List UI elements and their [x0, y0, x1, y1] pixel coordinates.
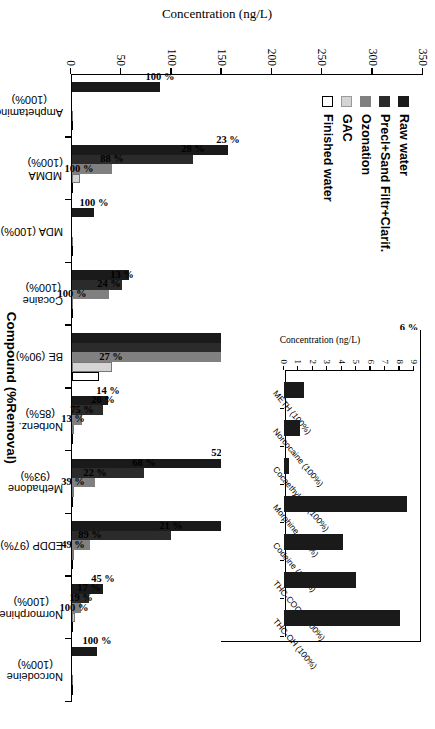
inset-y-tick-mark — [341, 366, 342, 370]
legend-swatch — [342, 96, 353, 107]
percent-annotation: 27 % — [99, 350, 123, 361]
inset-bar — [284, 572, 356, 588]
inset-chart-y-axis-label: Concentration (ng/L) — [280, 335, 360, 345]
x-tick-mark — [65, 701, 72, 702]
percent-annotation: 28 % — [181, 143, 205, 154]
bar-stack: 100 % — [72, 639, 423, 702]
inset-chart-bar-groups: METH (100%)Norcocaine (100%)Cocaethylene… — [284, 371, 414, 637]
legend-swatch — [323, 96, 334, 107]
percent-annotation: 88 % — [100, 153, 124, 164]
inset-y-tick-mark — [413, 366, 414, 370]
inset-bar-group: Morphine (100%) — [284, 485, 414, 523]
legend-swatch — [399, 96, 410, 107]
bar-group: 13 %24 %100 %Cocaine(100%) — [72, 263, 423, 326]
bar-stack: 13 %24 %100 % — [72, 263, 423, 326]
main-y-tick-mark — [371, 68, 372, 74]
inset-y-tick-mark — [283, 366, 284, 370]
percent-annotation: 21 % — [159, 519, 183, 530]
main-y-tick-mark — [321, 68, 322, 74]
percent-annotation: 68 % — [133, 456, 157, 467]
inset-chart-plot-area: METH (100%)Norcocaine (100%)Cocaethylene… — [285, 370, 414, 637]
bar — [72, 237, 73, 247]
percent-annotation: 20 % — [91, 394, 115, 405]
inset-chart: METH (100%)Norcocaine (100%)Cocaethylene… — [221, 330, 421, 642]
category-label: MDMA(100%) — [28, 156, 63, 181]
inset-bar-group: METH (100%) — [284, 371, 414, 409]
bar — [72, 372, 99, 382]
inset-bar — [284, 496, 407, 512]
legend-label: Ozonation — [359, 114, 373, 175]
legend-item[interactable]: GAC — [340, 96, 354, 252]
category-name: Amphetamine — [0, 106, 63, 119]
inset-y-tick-mark — [312, 366, 313, 370]
inset-bar-wrap — [284, 599, 414, 637]
category-name: MDMA — [28, 169, 63, 182]
figure-canvas: 100 %Amphetamine(100%)23 %28 %88 %100 %M… — [0, 0, 435, 729]
bar — [72, 111, 73, 121]
bar-group: 100 %Norcodeine(100%) — [72, 639, 423, 702]
category-name: Cocaine — [23, 294, 63, 307]
x-tick-mark — [65, 513, 72, 514]
main-chart-x-axis-label: Compound (%Removal) — [4, 312, 19, 464]
legend-item[interactable]: Finished water — [321, 96, 335, 252]
percent-annotation: 100 % — [83, 635, 112, 646]
x-tick-mark — [65, 450, 72, 451]
bar — [72, 497, 73, 507]
inset-bar — [284, 534, 343, 550]
inset-y-tick-mark — [369, 366, 370, 370]
legend-label: Precl+Sand Filtr+Clarif. — [378, 114, 392, 252]
inset-y-tick-mark — [326, 366, 327, 370]
inset-bar-group: Codeine (100%) — [284, 523, 414, 561]
category-label: Norbenz.(85%) — [18, 407, 63, 432]
category-name: Norbenz. — [18, 420, 63, 433]
inset-bar-wrap — [284, 409, 414, 447]
percent-annotation: 39 % — [62, 476, 86, 487]
bar: 100 % — [72, 82, 161, 92]
bar: 13 % — [72, 425, 75, 435]
category-label: Cocaine(100%) — [23, 282, 63, 307]
x-tick-mark — [65, 324, 72, 325]
main-y-tick-label: 50 — [115, 0, 127, 72]
main-y-tick-label: 350 — [417, 0, 429, 72]
legend-swatch — [380, 96, 391, 107]
bar — [72, 246, 73, 256]
bar: 39 % — [72, 487, 75, 497]
percent-annotation: 100 % — [65, 162, 94, 173]
bar — [72, 560, 73, 570]
category-removal: (100%) — [28, 156, 63, 169]
legend-item[interactable]: Ozonation — [359, 96, 373, 252]
inset-bar-group: Norcocaine (100%) — [284, 409, 414, 447]
legend-label: GAC — [340, 114, 354, 142]
inset-y-tick-mark — [398, 366, 399, 370]
inset-bar-wrap — [284, 447, 414, 485]
inset-y-tick-mark — [297, 366, 298, 370]
inset-bar-wrap — [284, 485, 414, 523]
inset-bar-group: Cocaethylene (100%) — [284, 447, 414, 485]
legend-label: Finished water — [321, 114, 335, 202]
inset-y-tick-label: 9 — [409, 330, 419, 368]
main-y-tick-label: 250 — [316, 0, 328, 72]
inset-bar — [284, 382, 304, 398]
category-label: EDDP (97%) — [0, 539, 63, 552]
category-label: MDA (100%) — [1, 225, 63, 238]
inset-y-tick-label: 7 — [380, 330, 390, 368]
bar: 100 % — [72, 208, 94, 218]
bar: 49 % — [72, 550, 74, 560]
category-label: BE (90%) — [16, 351, 63, 364]
bar: 100 % — [72, 613, 75, 623]
x-tick-mark — [65, 638, 72, 639]
category-removal: (100%) — [0, 595, 63, 608]
percent-annotation: 49 % — [61, 538, 85, 549]
bar: 27 % — [72, 362, 112, 372]
inset-y-tick-label: 8 — [395, 330, 405, 368]
inset-bar-wrap — [284, 561, 414, 599]
inset-y-tick-mark — [384, 366, 385, 370]
category-name: Norcodeine — [7, 671, 63, 684]
bar: 100 % — [72, 647, 97, 657]
category-removal: (100%) — [0, 94, 63, 107]
main-y-tick-mark — [220, 68, 221, 74]
legend-swatch — [361, 96, 372, 107]
legend-item[interactable]: Precl+Sand Filtr+Clarif. — [378, 96, 392, 252]
category-removal: (93%) — [8, 470, 63, 483]
legend-item[interactable]: Raw water — [397, 96, 411, 252]
